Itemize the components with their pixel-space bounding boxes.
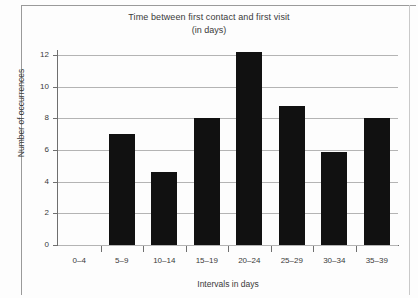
x-tick-mark bbox=[101, 246, 102, 252]
bar bbox=[194, 118, 220, 245]
gridline bbox=[58, 245, 398, 246]
bar bbox=[151, 172, 177, 245]
x-tick-label: 35–39 bbox=[356, 256, 399, 265]
y-axis-title: Number of occurrences bbox=[16, 48, 26, 178]
x-tick-label: 10–14 bbox=[143, 256, 186, 265]
x-tick-label: 0–4 bbox=[58, 256, 101, 265]
x-tick-mark bbox=[356, 246, 357, 252]
frame-border-top bbox=[21, 5, 416, 6]
gridline bbox=[58, 87, 398, 88]
plot-area bbox=[58, 55, 398, 245]
gridline bbox=[58, 118, 398, 119]
chart-subtitle: (in days) bbox=[0, 25, 418, 35]
y-tick-label: 4 bbox=[27, 177, 49, 186]
x-tick-mark bbox=[228, 246, 229, 252]
chart-title: Time between first contact and first vis… bbox=[0, 12, 418, 22]
x-tick-mark bbox=[186, 246, 187, 252]
x-tick-label: 25–29 bbox=[271, 256, 314, 265]
bar bbox=[321, 152, 347, 245]
x-axis-title: Intervals in days bbox=[58, 279, 398, 289]
bar bbox=[364, 118, 390, 245]
y-tick-label: 2 bbox=[27, 208, 49, 217]
y-tick-label: 0 bbox=[27, 240, 49, 249]
gridline bbox=[58, 55, 398, 56]
bar bbox=[236, 52, 262, 245]
x-tick-mark bbox=[313, 246, 314, 252]
y-tick-label: 8 bbox=[27, 113, 49, 122]
figure-frame: Time between first contact and first vis… bbox=[0, 0, 418, 298]
y-tick-label: 12 bbox=[27, 50, 49, 59]
bar bbox=[109, 134, 135, 245]
x-tick-label: 15–19 bbox=[186, 256, 229, 265]
x-tick-mark bbox=[143, 246, 144, 252]
y-tick-label: 6 bbox=[27, 145, 49, 154]
x-tick-label: 5–9 bbox=[101, 256, 144, 265]
x-tick-mark bbox=[271, 246, 272, 252]
x-tick-label: 20–24 bbox=[228, 256, 271, 265]
frame-border-right bbox=[409, 5, 410, 295]
x-tick-label: 30–34 bbox=[313, 256, 356, 265]
y-tick-label: 10 bbox=[27, 82, 49, 91]
bar bbox=[279, 106, 305, 245]
